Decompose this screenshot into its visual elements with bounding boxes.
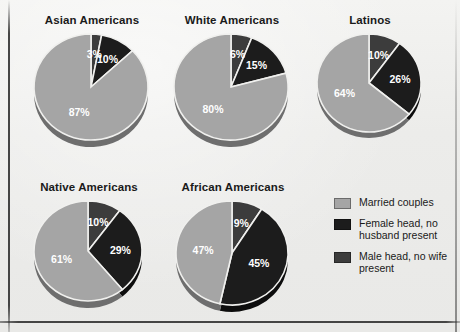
pie-title: White Americans — [185, 14, 279, 26]
pie-slice-label: 26% — [389, 73, 411, 85]
legend-label: Female head, no husband present — [359, 217, 456, 242]
legend-swatch-icon — [334, 252, 351, 263]
pie-graphic: 6%15%80% — [170, 30, 294, 153]
pie-slice-label: 9% — [234, 217, 250, 229]
pie-slice-label: 45% — [248, 257, 270, 269]
pie-slice-label: 29% — [110, 244, 132, 256]
pie-slice-label: 47% — [193, 244, 215, 256]
pie-slice-label: 10% — [368, 49, 390, 61]
legend-label: Married couples — [359, 196, 434, 208]
legend-item-male-head: Male head, no wife present — [334, 250, 456, 275]
pie-graphic: 9%45%47% — [172, 197, 294, 318]
legend-item-married: Married couples — [334, 196, 456, 209]
pie-slice-label: 87% — [69, 106, 91, 118]
legend-item-female-head: Female head, no husband present — [334, 217, 456, 242]
chart-figure: Asian Americans3%10%87%White Americans6%… — [0, 0, 460, 332]
pie-slice-label: 10% — [87, 216, 109, 228]
pie-title: African Americans — [182, 181, 285, 193]
pie-slice-label: 64% — [334, 87, 356, 99]
figure-border-bottom — [0, 321, 460, 323]
chart-legend: Married couplesFemale head, no husband p… — [334, 196, 456, 283]
legend-swatch-icon — [334, 219, 351, 230]
pie-slice-label: 15% — [246, 59, 268, 71]
pie-graphic: 3%10%87% — [30, 30, 154, 153]
pie-graphic: 10%29%61% — [30, 197, 148, 314]
pie-slice-label: 10% — [97, 53, 119, 65]
pie-slice-label: 80% — [202, 103, 224, 115]
pie-title: Native Americans — [40, 181, 138, 193]
pie-title: Asian Americans — [45, 14, 139, 26]
legend-swatch-icon — [334, 198, 351, 209]
pie-slice-label: 61% — [51, 253, 73, 265]
pie-slice-label: 6% — [230, 48, 246, 60]
pie-graphic: 10%26%64% — [313, 30, 427, 144]
figure-border-right — [455, 0, 457, 332]
pie-title: Latinos — [349, 14, 391, 26]
figure-border-left — [8, 0, 10, 332]
legend-label: Male head, no wife present — [359, 250, 456, 275]
